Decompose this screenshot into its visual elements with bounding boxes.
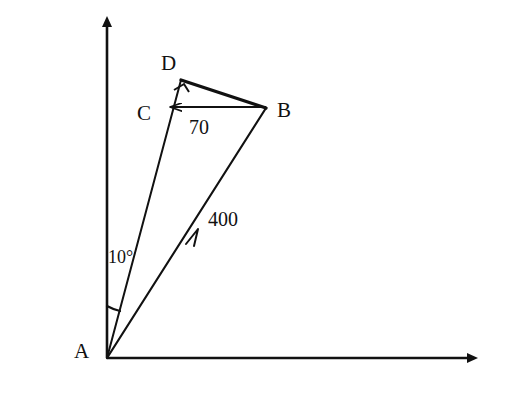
length-label-cb: 70 [189,117,209,137]
length-label-ab: 400 [208,209,238,229]
right-angle-marker [174,84,189,92]
vertex-label-A: A [74,341,89,362]
angle-arc-at-A [107,306,120,311]
vertex-label-C: C [137,103,151,124]
vertex-label-D: D [161,53,176,74]
segment-AB [107,108,266,358]
vertex-label-B: B [277,100,291,121]
segment-DB [181,80,266,108]
geometry-diagram: A B C D 400 70 10° [0,0,509,413]
angle-label-a: 10° [108,248,133,266]
